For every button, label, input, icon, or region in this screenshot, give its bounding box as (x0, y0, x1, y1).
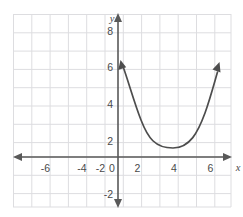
y-axis-label: y (109, 13, 115, 24)
x-tick-label: -4 (77, 162, 86, 174)
x-tick-label: 2 (135, 162, 141, 174)
graph-figure: -6 -4 -2 0 2 4 6 8 6 4 2 -2 y x (0, 0, 243, 217)
x-tick-label-origin: 0 (109, 162, 115, 174)
y-tick-label: 8 (107, 25, 113, 37)
y-tick-label: 6 (107, 61, 113, 73)
y-tick-label: 2 (107, 135, 113, 147)
y-tick-label: -2 (104, 188, 113, 200)
x-tick-label: 4 (171, 162, 177, 174)
x-axis-label: x (235, 162, 241, 173)
x-tick-label: -6 (41, 162, 50, 174)
y-tick-label: 4 (107, 98, 113, 110)
x-tick-label: 6 (208, 162, 214, 174)
coordinate-plane: -6 -4 -2 0 2 4 6 8 6 4 2 -2 y x (0, 0, 243, 217)
x-tick-label: -2 (96, 162, 105, 174)
